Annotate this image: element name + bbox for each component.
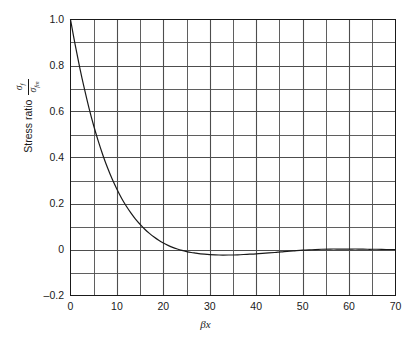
y-axis-label-fraction: σf σfm — [15, 79, 40, 94]
numerator-symbol: σ — [14, 86, 24, 91]
y-axis-label: Stress ratio σf σfm — [16, 36, 40, 196]
stress-ratio-chart-figure: 1.00.80.60.40.20–0.2 010203040506070 βx … — [0, 0, 411, 344]
x-tick-label: 10 — [102, 300, 132, 312]
y-axis-label-text: Stress ratio — [22, 100, 34, 153]
y-tick-label: 0 — [26, 243, 64, 255]
x-tick-label: 50 — [288, 300, 318, 312]
denominator-subscript: fm — [33, 81, 40, 88]
x-tick-label: 40 — [241, 300, 271, 312]
fraction-denominator: σfm — [29, 79, 41, 94]
stress-ratio-curve — [71, 20, 396, 256]
x-tick-label: 0 — [56, 300, 86, 312]
x-tick-label: 20 — [148, 300, 178, 312]
y-tick-label: 0.2 — [26, 197, 64, 209]
denominator-symbol: σ — [28, 88, 38, 93]
x-axis-label: βx — [0, 318, 411, 330]
x-tick-label: 60 — [334, 300, 364, 312]
x-tick-label: 70 — [381, 300, 411, 312]
fraction-numerator: σf — [15, 82, 27, 93]
major-gridlines — [71, 20, 396, 296]
y-tick-label: 1.0 — [26, 13, 64, 25]
numerator-subscript: f — [19, 84, 26, 86]
x-tick-label: 30 — [195, 300, 225, 312]
